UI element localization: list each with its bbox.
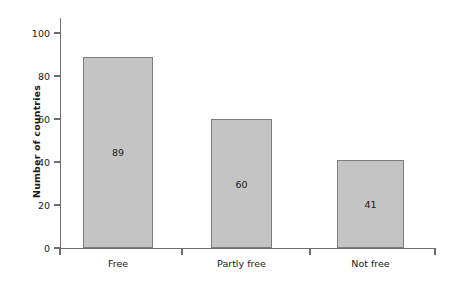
y-axis-tick-label: 60 [0,114,50,125]
bar[interactable] [83,57,153,248]
x-axis-category-label: Free [108,258,128,269]
x-axis-category-label: Not free [351,258,389,269]
x-axis-tick [181,249,182,255]
y-axis-tick-label: 40 [0,157,50,168]
x-axis-tick [59,249,60,255]
y-axis-title: Number of countries [24,0,48,283]
y-axis-tick [54,161,60,162]
y-axis-tick [54,75,60,76]
y-axis-tick-label: 100 [0,28,50,39]
y-axis-tick [54,118,60,119]
bar[interactable] [211,119,272,248]
x-axis-tick [434,249,435,255]
y-axis-tick-label: 20 [0,200,50,211]
bar-chart: Number of countries 020406080100 896041 … [0,0,449,283]
y-axis-tick-label: 80 [0,71,50,82]
y-axis-tick [54,32,60,33]
x-axis-category-label: Partly free [217,258,266,269]
y-axis-line [60,18,61,249]
bar[interactable] [337,160,404,248]
y-axis-tick [54,204,60,205]
y-axis-tick-label: 0 [0,243,50,254]
x-axis-tick [309,249,310,255]
